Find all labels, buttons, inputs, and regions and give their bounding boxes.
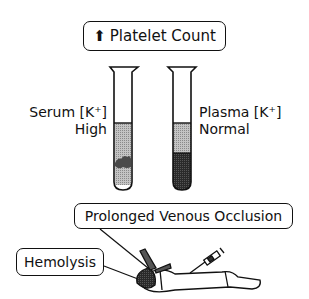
up-arrow-icon: ⬆ — [93, 27, 106, 45]
plasma-potassium-label: Plasma [K⁺] — [199, 104, 281, 121]
serum-label: Serum [K⁺] High — [29, 104, 107, 138]
prolonged-venous-occlusion-box: Prolonged Venous Occlusion — [74, 203, 293, 229]
plasma-level-label: Normal — [199, 121, 281, 138]
serum-level-label: High — [29, 121, 107, 138]
occlusion-pointer — [100, 229, 148, 268]
serum-tube — [110, 67, 138, 190]
platelet-count-label: Platelet Count — [110, 27, 216, 45]
platelet-count-box: ⬆ Platelet Count — [83, 21, 226, 51]
hemolysis-box: Hemolysis — [16, 248, 104, 276]
hemolysis-pointer — [104, 266, 138, 279]
arm-illustration — [137, 248, 261, 292]
plasma-label: Plasma [K⁺] Normal — [199, 104, 281, 138]
plasma-tube — [168, 67, 196, 190]
serum-potassium-label: Serum [K⁺] — [29, 104, 107, 121]
